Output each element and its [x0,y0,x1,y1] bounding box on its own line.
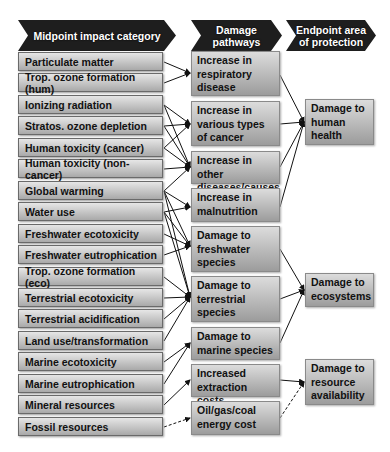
pathway-marine-species: Damage to marine species [191,327,280,360]
pathway-freshwater-species: Damage to freshwater species [191,226,280,272]
header-pathways-label: Damagepathways [213,24,261,48]
header-endpoint-line1: Endpoint area [296,24,366,36]
midpoint-human-tox-cancer: Human toxicity (cancer) [18,138,163,157]
header-endpoint-line2: of protection [299,36,363,48]
midpoint-marine-ecotox: Marine ecotoxicity [18,352,163,371]
pathway-energy-cost: Oil/gas/coal energy cost [191,401,280,435]
midpoint-trop-ozone-eco: Trop. ozone formation (eco) [18,267,163,286]
pathway-extraction-costs: Increased extraction costs [191,364,280,397]
midpoint-stratos-ozone: Stratos. ozone depletion [18,116,163,135]
midpoint-ionizing-radiation: Ionizing radiation [18,95,163,114]
midpoint-particulate-matter: Particulate matter [18,52,163,71]
endpoint-human-health: Damage to human health [305,99,374,145]
header-pathways-line1: Damage [216,24,257,36]
header-midpoint-category: Midpoint impact category [18,20,176,51]
midpoint-freshwater-eutroph: Freshwater eutrophication [18,245,163,264]
midpoint-terrestrial-acid: Terrestrial acidification [18,309,163,328]
pathway-other-diseases: Increase in other diseases/causes [191,151,280,184]
header-midpoint-label: Midpoint impact category [33,30,160,42]
midpoint-terrestrial-ecotox: Terrestrial ecotoxicity [18,288,163,307]
header-endpoint-area: Endpoint areaof protection [286,20,376,51]
pathway-cancer: Increase in various types of cancer [191,101,280,146]
midpoint-water-use: Water use [18,202,163,221]
header-pathways-line2: pathways [213,36,261,48]
pathway-malnutrition: Increase in malnutrition [191,188,280,222]
midpoint-trop-ozone-hum: Trop. ozone formation (hum) [18,73,163,92]
header-damage-pathways: Damagepathways [191,20,282,51]
midpoint-mineral-resources: Mineral resources [18,395,163,414]
header-endpoint-label: Endpoint areaof protection [296,24,366,48]
midpoint-human-tox-noncancer: Human toxicity (non-cancer) [18,159,163,178]
pathway-respiratory: Increase in respiratory disease [191,51,280,96]
midpoint-freshwater-ecotox: Freshwater ecotoxicity [18,224,163,243]
endpoint-ecosystems: Damage to ecosystems [305,273,374,307]
midpoint-land-use: Land use/transformation [18,331,163,350]
midpoint-global-warming: Global warming [18,181,163,200]
midpoint-marine-eutroph: Marine eutrophication [18,374,163,393]
pathway-terrestrial-species: Damage to terrestrial species [191,276,280,322]
midpoint-fossil-resources: Fossil resources [18,417,163,436]
endpoint-resource-availability: Damage to resource availability [305,359,374,405]
